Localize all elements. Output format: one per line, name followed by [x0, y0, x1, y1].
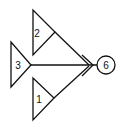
label-node-2: 2	[34, 28, 40, 39]
edge-2-to-6	[55, 32, 89, 65]
label-node-1: 1	[36, 94, 42, 105]
label-node-6: 6	[103, 60, 109, 71]
merge-diagram: 2 3 1 6	[0, 0, 134, 129]
label-node-3: 3	[15, 60, 21, 71]
edge-1-to-6	[54, 66, 89, 98]
triangle-node-3	[11, 42, 31, 87]
